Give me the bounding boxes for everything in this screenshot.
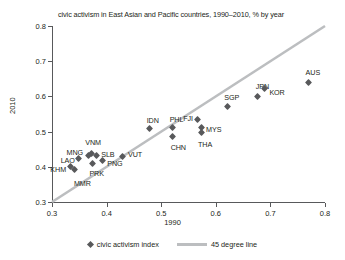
x-axis-line [52, 202, 325, 203]
data-point-label: VNM [85, 138, 101, 147]
x-tick-label: 0.5 [156, 209, 166, 218]
y-tick-label: 0.7 [36, 57, 46, 66]
x-tick-label: 0.8 [320, 209, 330, 218]
plot-area: 0.30.40.50.60.70.8 0.30.40.50.60.70.8 MM… [52, 26, 325, 202]
y-tick-mark [48, 132, 52, 133]
data-point-label: IDN [147, 116, 159, 125]
data-point-label: THA [198, 140, 212, 149]
data-point-label: PRK [89, 169, 103, 178]
data-point-label: MYS [206, 125, 221, 134]
legend-label-line: 45 degree line [211, 240, 257, 249]
y-tick-label: 0.5 [36, 127, 46, 136]
y-tick-label: 0.3 [36, 198, 46, 207]
y-tick-label: 0.4 [36, 162, 46, 171]
data-point-label: CHN [171, 143, 186, 152]
x-tick-label: 0.4 [101, 209, 111, 218]
x-tick-mark [161, 203, 162, 207]
x-tick-label: 0.7 [265, 209, 275, 218]
legend-label-points: civic activism index [97, 240, 159, 249]
chart-figure: civic activism in East Asian and Pacific… [0, 0, 345, 260]
data-point-label: LAO [61, 156, 75, 165]
data-point-label: PHL [170, 115, 184, 124]
y-tick-mark [48, 61, 52, 62]
x-tick-mark [52, 203, 53, 207]
data-point-label: KOR [269, 88, 284, 97]
line-swatch-icon [177, 243, 207, 245]
x-tick-mark [216, 203, 217, 207]
data-point-label: PNG [107, 159, 122, 168]
x-tick-mark [325, 203, 326, 207]
legend-entry-points: civic activism index [88, 240, 159, 249]
y-tick-mark [48, 96, 52, 97]
data-point-label: MMR [74, 179, 91, 188]
data-point-label: SGP [224, 93, 239, 102]
x-tick-label: 0.6 [211, 209, 221, 218]
data-point-label: MNG [67, 148, 83, 157]
data-point-label: FJI [183, 114, 193, 123]
x-axis-title: 1990 [0, 218, 345, 227]
y-tick-label: 0.8 [36, 22, 46, 31]
x-tick-mark [270, 203, 271, 207]
x-tick-label: 0.3 [47, 209, 57, 218]
chart-title: civic activism in East Asian and Pacific… [58, 10, 343, 19]
y-tick-mark [48, 26, 52, 27]
data-point-label: VUT [128, 150, 142, 159]
data-point-label: KHM [50, 165, 66, 174]
x-tick-mark [107, 203, 108, 207]
diamond-marker-icon [87, 241, 94, 248]
data-point-label: AUS [306, 68, 320, 77]
legend-entry-line: 45 degree line [177, 240, 257, 249]
y-axis-title: 2010 [8, 97, 17, 114]
chart-legend: civic activism index 45 degree line [0, 240, 345, 249]
y-tick-label: 0.6 [36, 92, 46, 101]
